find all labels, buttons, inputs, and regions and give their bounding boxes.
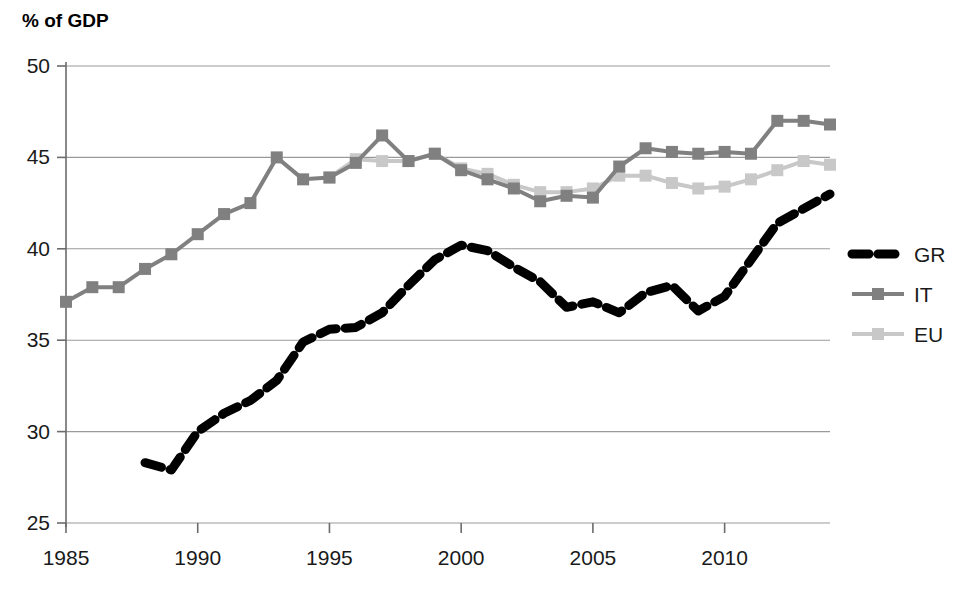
y-tick-label: 50 [27, 54, 50, 77]
legend-label-gr: GR [914, 243, 946, 266]
data-point-it [824, 119, 836, 131]
x-tick-label: 2005 [570, 546, 617, 569]
data-point-it [666, 146, 678, 158]
data-point-it [218, 208, 230, 220]
legend-label-it: IT [914, 283, 933, 306]
data-point-it [745, 148, 757, 160]
data-point-it [323, 172, 335, 184]
y-axis-title: % of GDP [22, 10, 109, 31]
data-point-eu [666, 177, 678, 189]
data-point-it [455, 164, 467, 176]
y-tick-label: 40 [27, 237, 50, 260]
data-point-it [534, 195, 546, 207]
data-point-it [165, 248, 177, 260]
data-point-it [587, 192, 599, 204]
legend-label-eu: EU [914, 323, 943, 346]
data-point-it [60, 296, 72, 308]
data-point-it [798, 115, 810, 127]
data-point-eu [692, 182, 704, 194]
y-tick-label: 25 [27, 511, 50, 534]
data-point-it [561, 190, 573, 202]
x-tick-label: 1985 [43, 546, 90, 569]
data-point-it [613, 161, 625, 173]
data-point-eu [640, 170, 652, 182]
data-point-it [271, 151, 283, 163]
data-point-eu [376, 155, 388, 167]
y-tick-label: 35 [27, 328, 50, 351]
data-point-it [402, 155, 414, 167]
data-point-it [719, 146, 731, 158]
data-point-it [350, 157, 362, 169]
legend-marker-eu [872, 328, 884, 340]
x-tick-label: 1990 [174, 546, 221, 569]
data-point-it [640, 142, 652, 154]
data-point-it [244, 197, 256, 209]
data-point-eu [719, 181, 731, 193]
x-tick-label: 2000 [438, 546, 485, 569]
data-point-eu [798, 155, 810, 167]
line-chart: % of GDP 253035404550 198519901995200020… [0, 0, 962, 595]
chart-background [0, 0, 962, 595]
x-tick-label: 1995 [306, 546, 353, 569]
data-point-it [692, 148, 704, 160]
y-tick-label: 45 [27, 145, 50, 168]
legend-marker-it [872, 288, 884, 300]
data-point-it [771, 115, 783, 127]
data-point-eu [745, 173, 757, 185]
data-point-eu [824, 159, 836, 171]
data-point-it [86, 281, 98, 293]
data-point-it [139, 263, 151, 275]
x-tick-label: 2010 [701, 546, 748, 569]
y-tick-label: 30 [27, 420, 50, 443]
chart-container: % of GDP 253035404550 198519901995200020… [0, 0, 962, 595]
data-point-it [297, 173, 309, 185]
data-point-eu [771, 164, 783, 176]
data-point-it [113, 281, 125, 293]
data-point-it [429, 148, 441, 160]
data-point-it [376, 129, 388, 141]
data-point-it [482, 173, 494, 185]
data-point-it [192, 228, 204, 240]
data-point-it [508, 182, 520, 194]
